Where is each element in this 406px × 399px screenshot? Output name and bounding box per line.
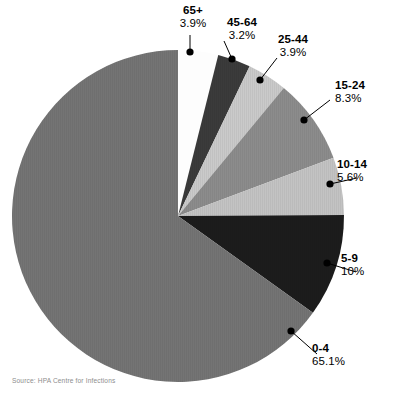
callout-percent-label: 65.1%: [312, 355, 376, 368]
callout-category-label: 5-9: [341, 252, 397, 265]
leader-0-4-dot: [287, 327, 294, 334]
leader-15-24-dot: [300, 116, 307, 123]
callout-percent-label: 10%: [341, 265, 397, 278]
callout-category-label: 45-64: [214, 16, 270, 29]
leader-25-44-dot: [256, 76, 263, 83]
callout-category-label: 25-44: [265, 33, 321, 46]
leader-5-9-dot: [323, 259, 330, 266]
pie-chart: 65+ 3.9% 45-64 3.2% 25-44 3.9% 15-24 8.3…: [0, 0, 406, 399]
leader-65-plus-dot: [186, 48, 193, 55]
pie-chart-canvas: [0, 0, 406, 399]
slice-callout-5-9: 5-9 10%: [341, 252, 397, 278]
callout-category-label: 0-4: [312, 342, 376, 355]
slice-callout-45-64: 45-64 3.2%: [214, 16, 270, 42]
callout-category-label: 65+: [167, 4, 219, 17]
slice-callout-0-4: 0-4 65.1%: [312, 342, 376, 368]
callout-percent-label: 3.2%: [214, 29, 270, 42]
callout-category-label: 10-14: [337, 158, 395, 171]
leader-10-14-dot: [326, 180, 333, 187]
callout-percent-label: 8.3%: [335, 92, 393, 105]
leader-15-24: [304, 100, 330, 120]
leader-45-64-dot: [228, 55, 235, 62]
slice-callout-10-14: 10-14 5.6%: [337, 158, 395, 184]
leader-25-44: [260, 58, 277, 80]
source-note: Source: HPA Centre for Infections: [12, 377, 115, 384]
callout-category-label: 15-24: [335, 79, 393, 92]
callout-percent-label: 3.9%: [265, 46, 321, 59]
slice-callout-25-44: 25-44 3.9%: [265, 33, 321, 59]
callout-percent-label: 5.6%: [337, 171, 395, 184]
slice-callout-15-24: 15-24 8.3%: [335, 79, 393, 105]
slice-callout-65-plus: 65+ 3.9%: [167, 4, 219, 30]
callout-percent-label: 3.9%: [167, 17, 219, 30]
